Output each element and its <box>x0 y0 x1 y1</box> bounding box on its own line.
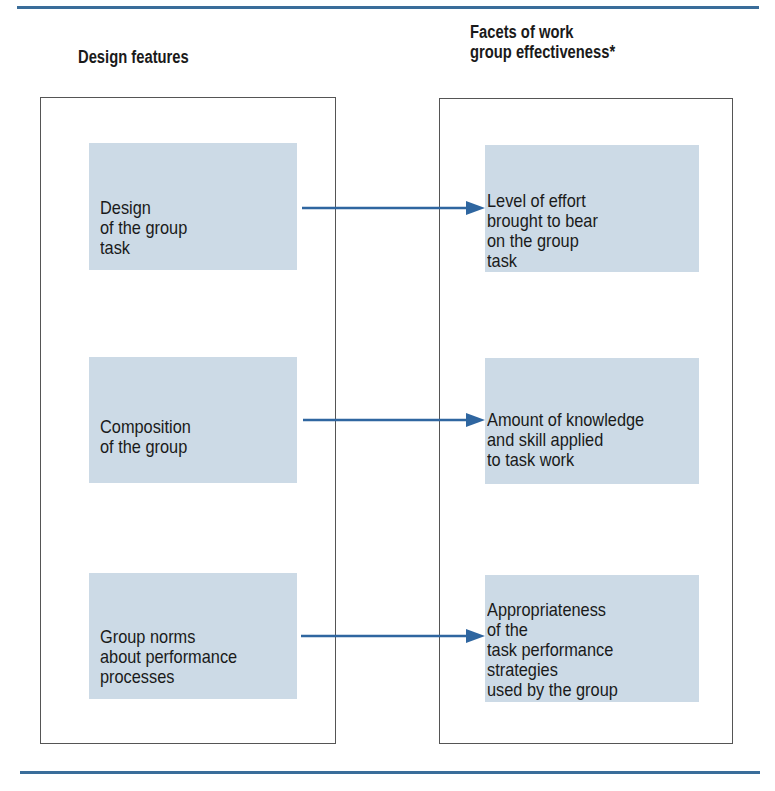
bottom-rule <box>20 771 760 774</box>
top-rule <box>17 6 759 9</box>
node-label: Design of the group task <box>100 198 269 258</box>
node-level-of-effort: Level of effort brought to bear on the g… <box>485 145 699 272</box>
node-performance-strategies: Appropriateness of the task performance … <box>485 575 699 702</box>
heading-design-features: Design features <box>78 47 189 67</box>
node-knowledge-and-skill: Amount of knowledge and skill applied to… <box>485 358 699 484</box>
node-design-of-group-task: Design of the group task <box>89 143 297 270</box>
node-label: Composition of the group <box>100 417 269 457</box>
node-label: Group norms about performance processes <box>100 627 269 687</box>
node-label: Appropriateness of the task performance … <box>487 600 669 700</box>
node-label: Level of effort brought to bear on the g… <box>487 191 669 271</box>
node-group-norms: Group norms about performance processes <box>89 573 297 699</box>
heading-facets-of-effectiveness: Facets of work group effectiveness* <box>470 22 615 62</box>
node-composition-of-group: Composition of the group <box>89 357 297 483</box>
node-label: Amount of knowledge and skill applied to… <box>487 410 669 470</box>
